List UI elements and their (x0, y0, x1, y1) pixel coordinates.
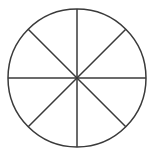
pie-fraction-figure (0, 0, 155, 158)
circle-eighths-svg (0, 0, 155, 158)
